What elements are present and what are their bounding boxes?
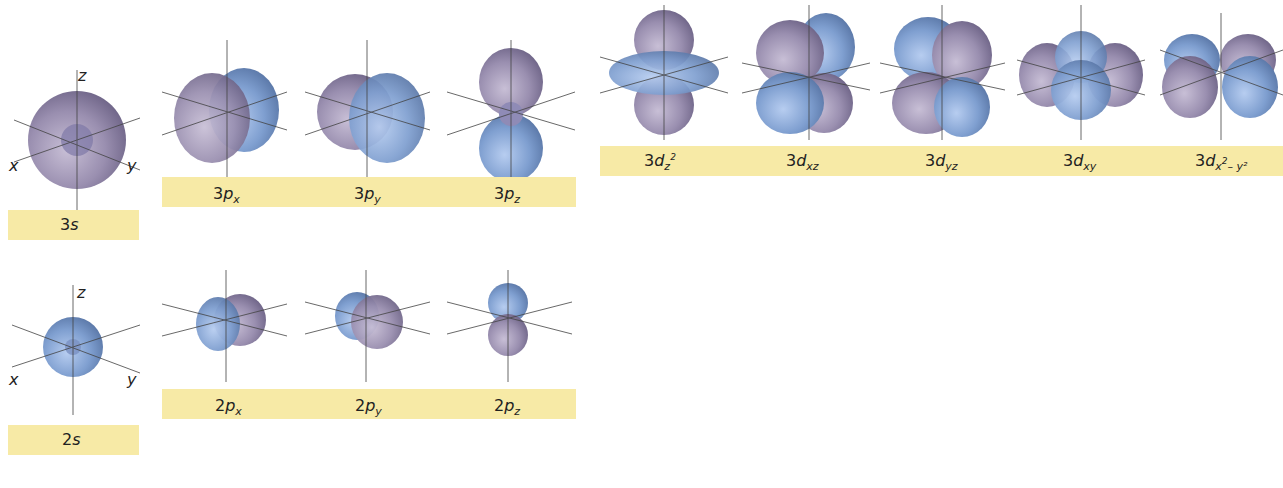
axis-label-x: x bbox=[9, 156, 18, 175]
axis-label-x: x bbox=[9, 370, 18, 389]
orbital-2s bbox=[10, 285, 145, 415]
orbital-2pz bbox=[447, 270, 577, 385]
orbital-2py bbox=[305, 270, 435, 385]
orbital-3py bbox=[305, 40, 435, 185]
orbital-3dxz bbox=[740, 5, 875, 140]
orbital-label-3px: 3px bbox=[213, 184, 240, 206]
orbital-3s bbox=[10, 70, 145, 210]
orbital-3px bbox=[162, 40, 292, 185]
orbital-label-3dz2: 3dz2 bbox=[644, 151, 676, 173]
axis-label-z: z bbox=[77, 283, 85, 302]
axis-label-y: y bbox=[127, 156, 136, 175]
axis-label-y: y bbox=[127, 370, 136, 389]
orbital-label-3py: 3py bbox=[354, 184, 381, 206]
orbital-label-3pz: 3pz bbox=[494, 184, 520, 206]
orbital-2px bbox=[162, 270, 292, 385]
orbital-label-3dx2-y2: 3dx2– y² bbox=[1195, 151, 1248, 173]
orbital-3pz bbox=[447, 40, 577, 185]
orbital-label-2py: 2py bbox=[355, 396, 382, 418]
orbital-label-2s: 2s bbox=[62, 430, 81, 449]
orbital-3dx2-y2 bbox=[1160, 5, 1283, 140]
orbital-label-3dxz: 3dxz bbox=[786, 151, 819, 173]
orbital-3dyz bbox=[880, 5, 1015, 140]
orbital-label-3s: 3s bbox=[60, 215, 79, 234]
orbital-label-3dxy: 3dxy bbox=[1063, 151, 1096, 173]
orbital-3dz2 bbox=[598, 5, 733, 140]
orbital-label-3dyz: 3dyz bbox=[925, 151, 958, 173]
orbital-label-2pz: 2pz bbox=[494, 396, 520, 418]
orbital-3dxy bbox=[1015, 5, 1150, 140]
orbital-label-2px: 2px bbox=[215, 396, 242, 418]
axis-label-z: z bbox=[78, 66, 86, 85]
